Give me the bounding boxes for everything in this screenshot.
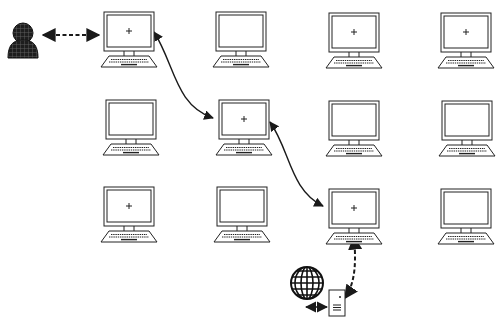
computer-icon — [100, 186, 160, 244]
computer-icon — [213, 186, 273, 244]
user-icon[interactable] — [8, 23, 38, 58]
computer-r1c4[interactable] — [437, 12, 497, 70]
computer-r3c4[interactable] — [437, 188, 497, 246]
computer-r2c3[interactable] — [325, 100, 385, 158]
computer-icon — [215, 99, 275, 157]
computer-icon — [102, 99, 162, 157]
computer-r1c2[interactable] — [212, 11, 272, 69]
computer-icon — [437, 188, 497, 246]
computer-r1c1[interactable] — [100, 11, 160, 69]
server-icon[interactable] — [329, 290, 345, 316]
computer-icon — [212, 11, 272, 69]
computer-icon — [438, 100, 498, 158]
computer-r2c4[interactable] — [438, 100, 498, 158]
computer-r1c3[interactable] — [325, 12, 385, 70]
server-link-arrow — [345, 237, 355, 298]
hop-arrow-1 — [154, 32, 213, 118]
computer-r3c3[interactable] — [325, 188, 385, 246]
computer-r2c2[interactable] — [215, 99, 275, 157]
computer-icon — [325, 12, 385, 70]
globe-icon[interactable] — [289, 266, 325, 300]
computer-r3c2[interactable] — [213, 186, 273, 244]
computer-r3c1[interactable] — [100, 186, 160, 244]
network-diagram — [0, 0, 500, 324]
hop-arrow-2 — [270, 122, 323, 206]
computer-icon — [437, 12, 497, 70]
computer-icon — [325, 100, 385, 158]
computer-r2c1[interactable] — [102, 99, 162, 157]
computer-icon — [100, 11, 160, 69]
computer-icon — [325, 188, 385, 246]
